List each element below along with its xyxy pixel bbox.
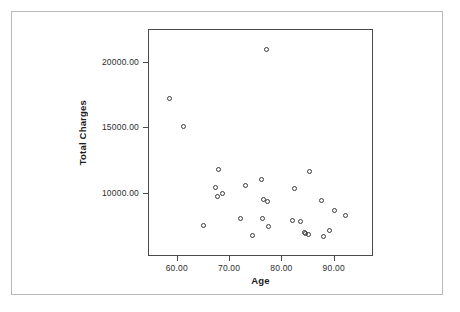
x-axis-tick bbox=[334, 256, 335, 261]
scatter-plot-figure: 10000.0015000.0020000.0060.0070.0080.009… bbox=[0, 0, 460, 312]
data-point bbox=[220, 191, 225, 196]
data-point bbox=[260, 216, 265, 221]
data-point bbox=[292, 186, 297, 191]
data-points-layer bbox=[149, 30, 372, 255]
x-axis-tick bbox=[281, 256, 282, 261]
data-point bbox=[213, 185, 218, 190]
data-point bbox=[327, 228, 332, 233]
data-point bbox=[259, 177, 264, 182]
data-point bbox=[321, 234, 326, 239]
data-point bbox=[181, 124, 186, 129]
data-point bbox=[265, 199, 270, 204]
data-point bbox=[215, 194, 220, 199]
x-axis-tick bbox=[177, 256, 178, 261]
plot-area-frame bbox=[148, 29, 373, 256]
x-axis-tick bbox=[229, 256, 230, 261]
data-point bbox=[167, 96, 172, 101]
y-axis-title: Total Charges bbox=[77, 100, 91, 165]
data-point bbox=[243, 183, 248, 188]
data-point bbox=[343, 213, 348, 218]
x-axis-tick-label: 90.00 bbox=[304, 263, 364, 273]
y-axis-tick-label: 10000.00 bbox=[0, 188, 139, 198]
y-axis-tick-label: 20000.00 bbox=[0, 57, 139, 67]
data-point bbox=[332, 208, 337, 213]
y-axis-tick-label: 15000.00 bbox=[0, 122, 139, 132]
data-point bbox=[250, 233, 255, 238]
data-point bbox=[238, 216, 243, 221]
x-axis-tick-label: 80.00 bbox=[251, 263, 311, 273]
data-point bbox=[298, 219, 303, 224]
data-point bbox=[201, 223, 206, 228]
data-point bbox=[306, 232, 311, 237]
data-point bbox=[307, 169, 312, 174]
data-point bbox=[264, 47, 269, 52]
data-point bbox=[266, 224, 271, 229]
data-point bbox=[290, 218, 295, 223]
x-axis-tick-label: 70.00 bbox=[199, 263, 259, 273]
x-axis-tick-label: 60.00 bbox=[147, 263, 207, 273]
data-point bbox=[216, 167, 221, 172]
x-axis-title: Age bbox=[148, 275, 373, 286]
data-point bbox=[319, 198, 324, 203]
